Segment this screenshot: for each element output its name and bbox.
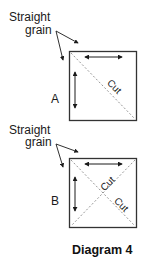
panel-label-a: A <box>51 92 59 106</box>
panel-b: Straight grain Cut Cut B <box>9 123 137 228</box>
cut-label-b2: Cut <box>112 195 131 214</box>
cut-label-a: Cut <box>105 77 124 96</box>
panel-label-b: B <box>51 194 59 208</box>
straight-grain-label-line1-a: Straight <box>9 10 51 24</box>
cut-label-b1: Cut <box>98 174 117 193</box>
panel-a: Straight grain Cut A <box>9 10 137 121</box>
diagram-canvas: Straight grain Cut A Straight grain <box>0 0 163 263</box>
diagonal-cut-line-a <box>71 53 135 119</box>
leader-arrows-a <box>56 31 78 60</box>
figure-caption: Diagram 4 <box>72 243 132 257</box>
straight-grain-label-line2-b: grain <box>25 135 52 149</box>
straight-grain-label-line2-a: grain <box>25 23 52 37</box>
